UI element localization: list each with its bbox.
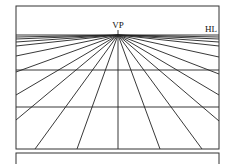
perspective-ray [35, 35, 118, 149]
perspective-ray [118, 35, 219, 121]
second-panel-frame [16, 153, 219, 164]
perspective-diagram: VP HL [0, 0, 230, 164]
perspective-ray [118, 35, 160, 149]
perspective-ray [118, 35, 202, 149]
vanishing-point-label: VP [112, 20, 124, 30]
horizon-line-label: HL [205, 24, 217, 34]
ground-lines [16, 70, 219, 107]
perspective-rays [16, 35, 219, 149]
